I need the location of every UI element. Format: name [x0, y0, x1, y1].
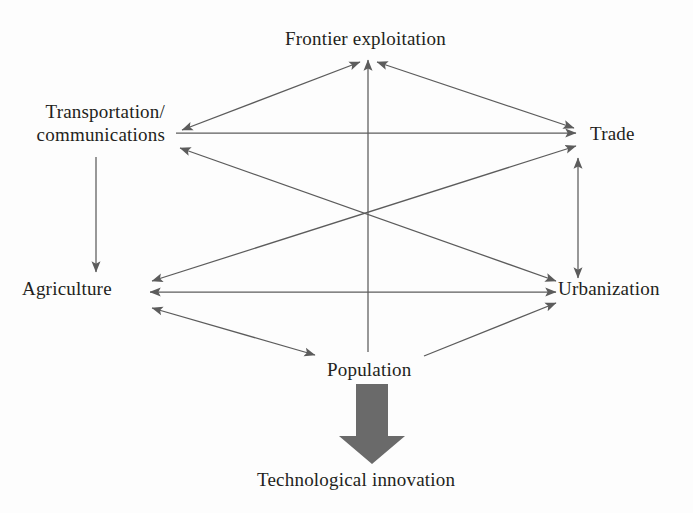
node-label-frontier-exploitation: Frontier exploitation — [285, 27, 446, 50]
diagram-canvas: Frontier exploitation Transportation/ co… — [0, 0, 693, 513]
edge-agriculture-trade — [152, 146, 576, 281]
node-label-transportation-communications: Transportation/ communications — [22, 100, 165, 146]
node-label-trade: Trade — [590, 122, 635, 145]
node-label-urbanization: Urbanization — [558, 277, 660, 300]
edge-frontier-trade — [377, 62, 574, 128]
node-label-population: Population — [327, 358, 411, 381]
edge-population-urbanization — [424, 303, 556, 356]
node-label-transportation-line1: Transportation/ — [22, 100, 165, 123]
edge-agriculture-population — [152, 308, 315, 355]
edge-population-technological-block-arrow — [339, 384, 405, 464]
node-label-agriculture: Agriculture — [22, 277, 112, 300]
diagram-arrows — [0, 0, 693, 513]
node-label-technological-innovation: Technological innovation — [257, 468, 455, 491]
node-label-transportation-line2: communications — [22, 123, 165, 146]
edge-transportation-frontier — [182, 62, 360, 130]
